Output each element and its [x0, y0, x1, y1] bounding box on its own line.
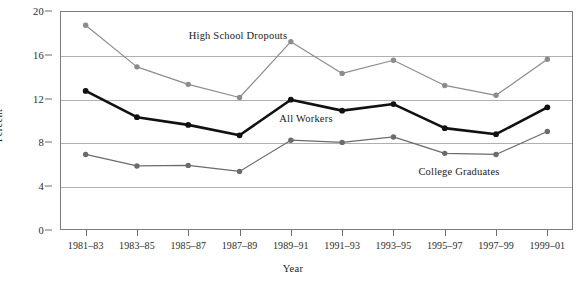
x-axis-tick-mark — [291, 230, 292, 236]
x-axis-tick-mark — [86, 230, 87, 236]
y-axis-tick-label: 8 — [39, 137, 44, 148]
x-axis-tick-label: 1999–01 — [529, 240, 565, 251]
series-label: College Graduates — [418, 166, 499, 177]
y-axis-tick-mark — [45, 230, 52, 231]
gridline — [61, 56, 572, 57]
chart-figure: Percent 201612840 1981–831983–851985–871… — [0, 0, 586, 285]
y-axis-tick-label: 0 — [39, 225, 44, 236]
x-axis-tick-label: 1991–93 — [324, 240, 360, 251]
x-axis-tick-mark — [547, 230, 548, 236]
x-axis-tick-mark — [445, 230, 446, 236]
x-axis-tick-mark — [496, 230, 497, 236]
x-axis-tick-label: 1981–83 — [68, 240, 104, 251]
x-axis-title: Year — [0, 263, 586, 274]
y-axis: 201612840 — [0, 0, 60, 285]
gridline — [61, 187, 572, 188]
series-label: All Workers — [279, 113, 332, 124]
y-axis-tick-mark — [45, 54, 52, 55]
x-axis-tick-label: 1985–87 — [170, 240, 206, 251]
y-axis-tick-mark — [45, 11, 52, 12]
y-axis-tick-mark — [45, 98, 52, 99]
series-label: High School Dropouts — [189, 30, 288, 41]
y-axis-tick-label: 4 — [39, 181, 44, 192]
x-axis-tick-label: 1989–91 — [273, 240, 309, 251]
y-axis-tick-label: 16 — [33, 49, 44, 60]
x-axis-tick-label: 1993–95 — [376, 240, 412, 251]
x-axis-tick-label: 1997–99 — [478, 240, 514, 251]
x-axis-tick-label: 1983–85 — [119, 240, 155, 251]
x-axis-tick-mark — [240, 230, 241, 236]
x-axis-tick-label: 1987–89 — [222, 240, 258, 251]
y-axis-tick-label: 20 — [33, 6, 44, 17]
x-axis-tick-mark — [342, 230, 343, 236]
gridline — [61, 143, 572, 144]
x-axis-tick-mark — [188, 230, 189, 236]
x-axis-tick-mark — [137, 230, 138, 236]
y-axis-tick-label: 12 — [33, 93, 44, 104]
y-axis-tick-mark — [45, 142, 52, 143]
x-axis-tick-label: 1995–97 — [427, 240, 463, 251]
gridline — [61, 100, 572, 101]
y-axis-tick-mark — [45, 186, 52, 187]
x-axis-tick-mark — [393, 230, 394, 236]
